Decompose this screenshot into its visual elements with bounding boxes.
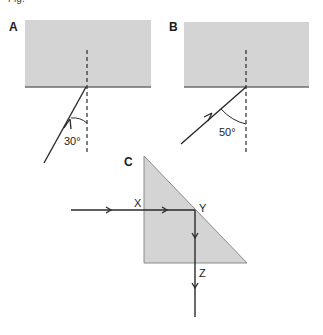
panel-a: A 30° <box>9 20 151 163</box>
panel-b-label: B <box>169 20 178 34</box>
refraction-diagram: A 30° B 50° C X Y Z <box>0 0 323 335</box>
angle-label-b: 50° <box>219 126 236 138</box>
panel-c: C X Y Z <box>71 155 247 317</box>
panel-c-label: C <box>124 155 133 169</box>
point-x-label: X <box>134 197 142 209</box>
medium-block-a <box>25 20 151 87</box>
angle-arc-a <box>71 118 87 123</box>
point-z-label: Z <box>199 267 206 279</box>
incident-ray-b <box>181 87 246 144</box>
medium-block-b <box>184 22 309 87</box>
panel-a-label: A <box>9 20 18 34</box>
incident-ray-a <box>44 87 86 163</box>
panel-b: B 50° <box>169 20 309 152</box>
angle-label-a: 30° <box>64 135 81 147</box>
point-y-label: Y <box>199 202 207 214</box>
angle-arc-b <box>221 109 246 124</box>
